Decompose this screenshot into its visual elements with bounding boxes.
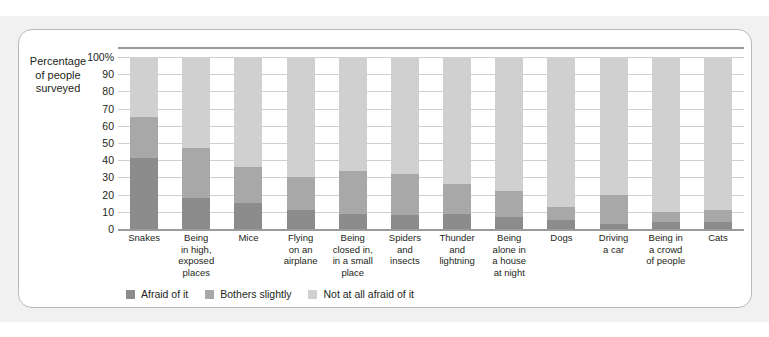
x-axis-category-label-line: on an bbox=[275, 244, 327, 256]
x-axis-category-label-line: a crowd bbox=[640, 244, 692, 256]
bar-segment[interactable] bbox=[704, 210, 732, 222]
x-axis-category-label: Dogs bbox=[535, 232, 587, 244]
x-axis-category-label-line: in high, bbox=[170, 244, 222, 256]
legend-swatch-icon bbox=[308, 290, 317, 299]
x-axis-category-label: Cats bbox=[692, 232, 744, 244]
y-axis-tick-label: 20 bbox=[70, 189, 114, 201]
x-axis-category-label: Being ina crowdof people bbox=[640, 232, 692, 267]
x-axis-category-label-line: lightning bbox=[431, 255, 483, 267]
legend-swatch-icon bbox=[205, 290, 214, 299]
bar-segment[interactable] bbox=[495, 57, 523, 191]
x-axis-category-label-line: Mice bbox=[222, 232, 274, 244]
x-axis-category-label-line: of people bbox=[640, 255, 692, 267]
bar-segment[interactable] bbox=[182, 198, 210, 229]
x-axis-category-label-line: Being in bbox=[640, 232, 692, 244]
bar-segment[interactable] bbox=[234, 203, 262, 229]
bar-segment[interactable] bbox=[287, 210, 315, 229]
bar-column[interactable] bbox=[652, 57, 680, 229]
x-axis-category-label-line: Thunder bbox=[431, 232, 483, 244]
x-axis-category-label-line: exposed bbox=[170, 255, 222, 267]
bar-column[interactable] bbox=[339, 57, 367, 229]
x-axis-category-label-line: Cats bbox=[692, 232, 744, 244]
bar-segment[interactable] bbox=[443, 184, 471, 213]
bar-segment[interactable] bbox=[391, 174, 419, 215]
y-axis-tick-label: 70 bbox=[70, 103, 114, 115]
bar-segment[interactable] bbox=[339, 57, 367, 171]
bar-segment[interactable] bbox=[443, 214, 471, 229]
bar-column[interactable] bbox=[234, 57, 262, 229]
x-axis-category-label-line: closed in, bbox=[327, 244, 379, 256]
bar-segment[interactable] bbox=[600, 224, 628, 229]
bar-segment[interactable] bbox=[287, 57, 315, 177]
plot-top-rule bbox=[118, 47, 744, 49]
x-axis-category-label-line: airplane bbox=[275, 255, 327, 267]
legend-swatch-icon bbox=[126, 290, 135, 299]
x-axis-category-label-line: and bbox=[379, 244, 431, 256]
legend-item[interactable]: Not at all afraid of it bbox=[308, 288, 413, 300]
bar-segment[interactable] bbox=[182, 148, 210, 198]
bar-segment[interactable] bbox=[547, 57, 575, 207]
x-axis-category-label-line: Flying bbox=[275, 232, 327, 244]
x-axis-category-label-line: in a small bbox=[327, 255, 379, 267]
x-axis-category-label: Drivinga car bbox=[588, 232, 640, 255]
bar-segment[interactable] bbox=[547, 220, 575, 229]
x-axis-category-label: Spidersandinsects bbox=[379, 232, 431, 267]
x-axis-category-label-line: Being bbox=[170, 232, 222, 244]
x-axis-category-label-line: at night bbox=[483, 267, 535, 279]
bar-segment[interactable] bbox=[600, 57, 628, 195]
y-axis-tick-label: 10 bbox=[70, 206, 114, 218]
x-axis-category-label: Thunderandlightning bbox=[431, 232, 483, 267]
bar-segment[interactable] bbox=[339, 171, 367, 214]
bar-segment[interactable] bbox=[182, 57, 210, 148]
x-axis-category-label-line: Dogs bbox=[535, 232, 587, 244]
top-cutoff-text-fragment bbox=[520, 0, 750, 11]
legend-item[interactable]: Bothers slightly bbox=[205, 288, 291, 300]
y-axis-tick-label: 40 bbox=[70, 154, 114, 166]
y-axis-tick-label: 100% bbox=[70, 51, 114, 63]
x-axis-category-label-line: Driving bbox=[588, 232, 640, 244]
bar-segment[interactable] bbox=[287, 177, 315, 210]
bar-segment[interactable] bbox=[704, 222, 732, 229]
bar-column[interactable] bbox=[287, 57, 315, 229]
bar-column[interactable] bbox=[704, 57, 732, 229]
bar-segment[interactable] bbox=[339, 214, 367, 229]
page-bottom-edge bbox=[0, 322, 769, 337]
bar-column[interactable] bbox=[547, 57, 575, 229]
bar-column[interactable] bbox=[130, 57, 158, 229]
bar-segment[interactable] bbox=[443, 57, 471, 184]
y-axis-tick-label: 90 bbox=[70, 68, 114, 80]
y-axis-tick-label: 0 bbox=[70, 223, 114, 235]
x-axis-category-label-line: Spiders bbox=[379, 232, 431, 244]
x-axis-category-label-line: and bbox=[431, 244, 483, 256]
bar-series-group bbox=[118, 57, 744, 229]
bar-segment[interactable] bbox=[652, 222, 680, 229]
bar-segment[interactable] bbox=[652, 212, 680, 222]
bar-segment[interactable] bbox=[391, 215, 419, 229]
bar-column[interactable] bbox=[391, 57, 419, 229]
bar-column[interactable] bbox=[600, 57, 628, 229]
bar-segment[interactable] bbox=[391, 57, 419, 174]
x-axis-category-label: Beingalone ina houseat night bbox=[483, 232, 535, 278]
bar-segment[interactable] bbox=[704, 57, 732, 210]
bar-segment[interactable] bbox=[547, 207, 575, 221]
legend-label: Not at all afraid of it bbox=[323, 288, 413, 300]
x-axis-category-label-line: place bbox=[327, 267, 379, 279]
bar-segment[interactable] bbox=[234, 167, 262, 203]
y-axis-tick-labels: 0102030405060708090100% bbox=[66, 57, 114, 229]
bar-segment[interactable] bbox=[652, 57, 680, 212]
legend-label: Bothers slightly bbox=[220, 288, 291, 300]
bar-column[interactable] bbox=[495, 57, 523, 229]
bar-segment[interactable] bbox=[130, 117, 158, 158]
bar-segment[interactable] bbox=[130, 158, 158, 229]
bar-segment[interactable] bbox=[234, 57, 262, 167]
bar-column[interactable] bbox=[182, 57, 210, 229]
y-axis-tick-label: 60 bbox=[70, 120, 114, 132]
bar-segment[interactable] bbox=[495, 191, 523, 217]
bar-segment[interactable] bbox=[130, 57, 158, 117]
legend-item[interactable]: Afraid of it bbox=[126, 288, 188, 300]
bar-column[interactable] bbox=[443, 57, 471, 229]
bar-segment[interactable] bbox=[495, 217, 523, 229]
y-axis-tick-label: 30 bbox=[70, 171, 114, 183]
bar-segment[interactable] bbox=[600, 195, 628, 224]
x-axis-category-label-line: Being bbox=[327, 232, 379, 244]
